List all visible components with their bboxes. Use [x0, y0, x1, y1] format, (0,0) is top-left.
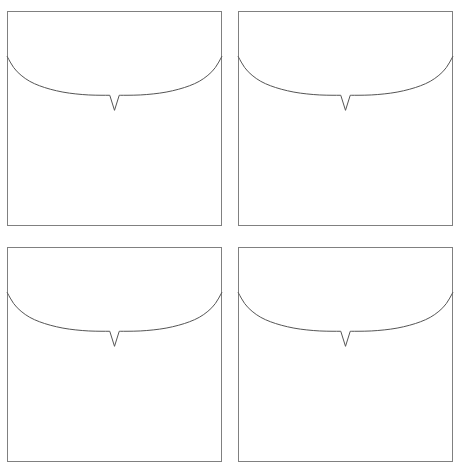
- panel-top-left: [7, 11, 222, 226]
- panel-plot-area: [238, 11, 453, 226]
- panel-bottom-right: [238, 247, 453, 462]
- curve-line: [238, 56, 453, 110]
- panel-plot-area: [238, 247, 453, 462]
- curve-line: [238, 292, 453, 346]
- panel-top-right: [238, 11, 453, 226]
- panel-bottom-left: [7, 247, 222, 462]
- panel-plot-area: [7, 247, 222, 462]
- panel-plot-area: [7, 11, 222, 226]
- curve-line: [7, 292, 222, 346]
- figure-root: [0, 0, 461, 467]
- curve-line: [7, 56, 222, 110]
